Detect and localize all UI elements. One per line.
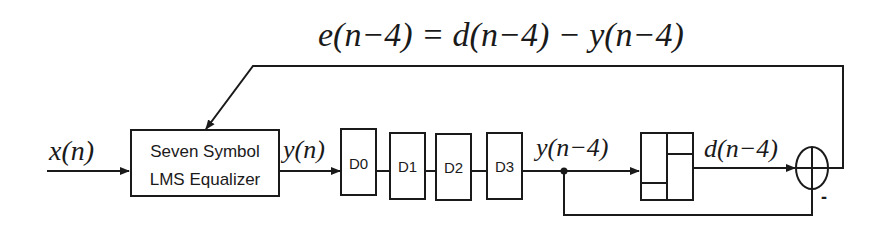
delay-label: D0	[349, 155, 368, 172]
delay-label: D2	[444, 159, 463, 176]
input-label: x(n)	[48, 135, 94, 166]
summing-junction	[796, 147, 828, 189]
equalizer-label-line1: Seven Symbol	[150, 142, 260, 161]
error-equation: e(n−4) = d(n−4) − y(n−4)	[318, 16, 684, 54]
decision-device-block	[641, 133, 693, 200]
equalizer-output-label: y(n)	[280, 135, 325, 164]
equalizer-label-line2: LMS Equalizer	[150, 170, 261, 189]
delay-label: D3	[495, 158, 514, 175]
lms-equalizer-block-diagram: e(n−4) = d(n−4) − y(n−4) x(n) Seven Symb…	[0, 0, 887, 228]
delayed-output-label: y(n−4)	[533, 133, 608, 162]
delay-chain: D0 D1 D2 D3	[341, 129, 522, 200]
lms-equalizer-block: Seven Symbol LMS Equalizer	[131, 130, 279, 196]
decision-output-label: d(n−4)	[704, 134, 778, 163]
delay-label: D1	[398, 158, 417, 175]
summer-minus-sign: -	[821, 187, 827, 207]
